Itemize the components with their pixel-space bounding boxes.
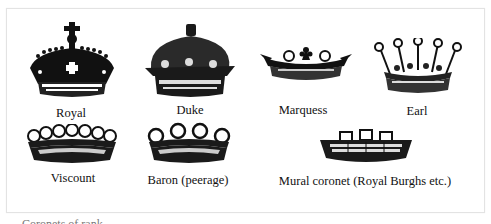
royal-label: Royal xyxy=(56,106,86,121)
viscount-label: Viscount xyxy=(51,171,95,186)
figure-caption: Coronets of rank xyxy=(22,217,103,224)
baron-label: Baron (peerage) xyxy=(148,173,229,188)
marquess-crown-icon xyxy=(258,44,354,84)
duke-label: Duke xyxy=(176,103,203,118)
earl-label: Earl xyxy=(407,104,428,119)
viscount-crown-icon xyxy=(24,124,120,164)
baron-crown-icon xyxy=(146,122,232,164)
marquess-label: Marquess xyxy=(279,103,328,118)
earl-crown-icon xyxy=(370,38,466,94)
mural-coronet-icon xyxy=(318,128,414,164)
royal-crown-icon xyxy=(26,22,118,100)
duke-crown-icon xyxy=(143,24,237,98)
mural-coronet-label: Mural coronet (Royal Burghs etc.) xyxy=(279,174,451,189)
